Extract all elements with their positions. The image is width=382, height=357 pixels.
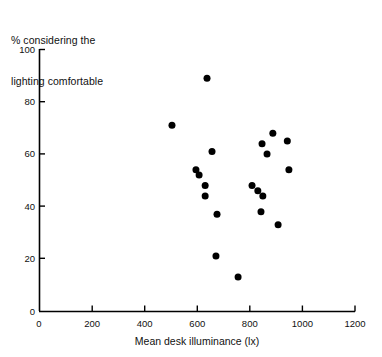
y-tick-label: 80 (24, 96, 35, 107)
x-axis-ticks (92, 306, 355, 312)
data-point (235, 274, 242, 281)
x-tick-label: 400 (137, 318, 153, 329)
data-point (202, 182, 209, 189)
y-axis-tick-labels: 100 80 60 40 20 0 (19, 44, 35, 317)
data-point (214, 211, 221, 218)
scatter-chart-figure: % considering the lighting comfortable 1… (0, 0, 382, 357)
data-point (209, 148, 216, 155)
data-point (259, 192, 266, 199)
data-point (257, 208, 264, 215)
data-point (212, 253, 219, 260)
data-point-group (168, 75, 292, 281)
data-point (285, 166, 292, 173)
data-point (168, 122, 175, 129)
x-tick-label: 1000 (292, 318, 313, 329)
data-point (259, 140, 266, 147)
x-tick-label: 0 (36, 318, 41, 329)
y-tick-label: 100 (19, 44, 35, 55)
y-tick-label: 60 (24, 148, 35, 159)
data-point (254, 187, 261, 194)
data-point (269, 130, 276, 137)
data-point (264, 151, 271, 158)
data-point (204, 75, 211, 82)
x-tick-label: 800 (242, 318, 258, 329)
x-tick-label: 1200 (344, 318, 365, 329)
y-tick-label: 0 (30, 306, 35, 317)
y-tick-label: 40 (24, 201, 35, 212)
x-tick-label: 600 (189, 318, 205, 329)
data-point (275, 221, 282, 228)
y-axis-ticks (40, 50, 46, 259)
x-axis-label: Mean desk illuminance (lx) (135, 335, 259, 347)
y-tick-label: 20 (24, 253, 35, 264)
data-point (249, 182, 256, 189)
x-axis-tick-labels: 0 200 400 600 800 1000 1200 (36, 318, 365, 329)
x-tick-label: 200 (84, 318, 100, 329)
data-point (284, 138, 291, 145)
data-point (196, 172, 203, 179)
data-point (202, 192, 209, 199)
plot-area: 100 80 60 40 20 0 0 200 400 600 800 1000… (0, 0, 382, 357)
